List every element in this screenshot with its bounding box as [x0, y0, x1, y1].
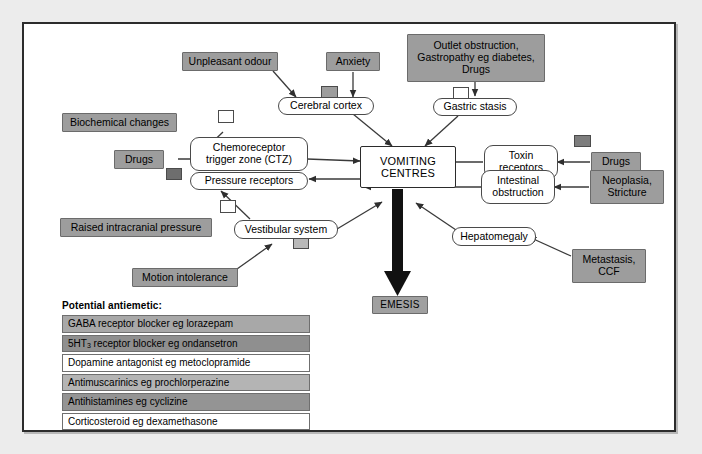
- legend-title: Potential antiemetic:: [62, 300, 310, 311]
- node-label: Anxiety: [336, 56, 370, 68]
- chip-toxin-receptors: [574, 135, 591, 147]
- edge-ctz-to-centre: [307, 159, 360, 161]
- legend-row-label: Corticosteroid eg dexamethasone: [68, 416, 218, 427]
- node-label: Gastric stasis: [443, 101, 506, 113]
- node-ctz[interactable]: Chemoreceptor trigger zone (CTZ): [190, 137, 308, 171]
- legend-row-label: receptor blocker eg ondansetron: [94, 338, 238, 349]
- node-label: Pressure receptors: [205, 175, 294, 187]
- node-label-line2: obstruction: [492, 187, 543, 199]
- legend-row-label: Antihistamines eg cyclizine: [68, 396, 188, 407]
- node-label: Hepatomegaly: [460, 231, 528, 243]
- node-motion-intolerance[interactable]: Motion intolerance: [132, 268, 238, 287]
- node-label-line2: CCF: [598, 266, 620, 278]
- chip-drugs-ctz: [166, 168, 182, 180]
- legend-row-label: Dopamine antagonist eg metoclopramide: [68, 357, 250, 368]
- node-label: Vestibular system: [245, 224, 327, 236]
- node-gastric-stasis[interactable]: Gastric stasis: [433, 98, 517, 116]
- legend-row-subscript: 3: [87, 342, 91, 349]
- legend-row[interactable]: Dopamine antagonist eg metoclopramide: [62, 354, 310, 372]
- edge-motion-to-vestibular: [237, 244, 272, 269]
- node-drugs-right[interactable]: Drugs: [591, 152, 641, 171]
- node-cerebral-cortex[interactable]: Cerebral cortex: [278, 97, 374, 115]
- node-unpleasant-odour[interactable]: Unpleasant odour: [182, 52, 278, 71]
- node-metastasis-ccf[interactable]: Metastasis, CCF: [572, 249, 646, 283]
- legend-row-label: Antimuscarinics eg prochlorperazine: [68, 377, 229, 388]
- edge-vestibular-to-centre: [337, 202, 382, 229]
- chip-pressure-receptors: [220, 200, 236, 213]
- chip-vestibular-system: [293, 238, 309, 249]
- node-label-line1: VOMITING: [380, 155, 436, 167]
- node-label-line2: trigger zone (CTZ): [206, 154, 292, 166]
- node-raised-icp[interactable]: Raised intracranial pressure: [60, 218, 212, 237]
- node-label-line2: Stricture: [607, 187, 646, 199]
- node-label: EMESIS: [380, 299, 420, 310]
- node-vestibular-system[interactable]: Vestibular system: [234, 220, 338, 239]
- node-label-line3: Drugs: [462, 64, 490, 76]
- diagram-canvas: Unpleasant odour Anxiety Cerebral cortex…: [24, 24, 674, 430]
- legend: Potential antiemetic: GABA receptor bloc…: [62, 300, 310, 432]
- legend-row[interactable]: GABA receptor blocker eg lorazepam: [62, 315, 310, 333]
- emesis-arrow: [384, 189, 411, 296]
- node-label: Raised intracranial pressure: [71, 222, 202, 234]
- node-intestinal-obstruction[interactable]: Intestinal obstruction: [481, 170, 555, 204]
- node-drugs-left[interactable]: Drugs: [114, 150, 164, 169]
- node-label: Cerebral cortex: [290, 100, 362, 112]
- node-label-line2: CENTRES: [381, 167, 435, 179]
- node-outlet-obstruction[interactable]: Outlet obstruction, Gastropathy eg diabe…: [407, 34, 545, 82]
- node-pressure-receptors[interactable]: Pressure receptors: [190, 172, 308, 190]
- edge-gastric-to-centre: [425, 116, 458, 146]
- node-hepatomegaly[interactable]: Hepatomegaly: [452, 227, 536, 246]
- legend-row[interactable]: 5HT3 receptor blocker eg ondansetron: [62, 335, 310, 353]
- node-anxiety[interactable]: Anxiety: [326, 52, 380, 71]
- legend-row[interactable]: Antimuscarinics eg prochlorperazine: [62, 374, 310, 392]
- legend-row-label: GABA receptor blocker eg lorazepam: [68, 318, 233, 329]
- diagram-frame: Unpleasant odour Anxiety Cerebral cortex…: [22, 22, 676, 432]
- node-label: Drugs: [125, 154, 153, 166]
- legend-row-prefix: 5HT: [68, 338, 87, 349]
- node-label: Motion intolerance: [142, 272, 228, 284]
- node-label: Drugs: [602, 156, 630, 168]
- node-emesis[interactable]: EMESIS: [372, 296, 428, 314]
- node-biochemical-changes[interactable]: Biochemical changes: [62, 113, 177, 132]
- node-label: Unpleasant odour: [189, 56, 272, 68]
- node-vomiting-centres[interactable]: VOMITING CENTRES: [360, 146, 456, 188]
- edge-cortex-to-centre: [353, 114, 392, 146]
- node-neoplasia-stricture[interactable]: Neoplasia, Stricture: [590, 170, 664, 204]
- edge-odour-to-cortex: [273, 71, 296, 97]
- legend-row[interactable]: Antihistamines eg cyclizine: [62, 393, 310, 411]
- chip-biochemical-changes: [218, 110, 234, 123]
- node-label: Biochemical changes: [70, 117, 169, 129]
- legend-row[interactable]: Corticosteroid eg dexamethasone: [62, 413, 310, 431]
- page-background: Unpleasant odour Anxiety Cerebral cortex…: [0, 0, 702, 454]
